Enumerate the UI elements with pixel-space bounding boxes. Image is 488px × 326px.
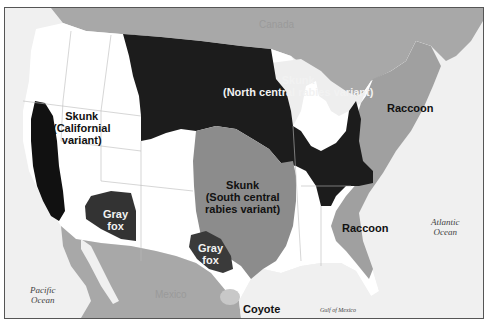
label-skunk-north-central: Skunk (North central rabies variant) [223, 74, 373, 98]
label-raccoon-southeast: Raccoon [342, 222, 388, 234]
label-skunk-californian: Skunk (Californial variant) [53, 110, 110, 146]
label-skunk-south-central: Skunk (South central rabies variant) [205, 179, 280, 215]
map-canvas [5, 8, 483, 318]
label-mexico: Mexico [155, 289, 187, 300]
coyote-region [220, 289, 240, 305]
label-raccoon-northeast: Raccoon [387, 102, 433, 114]
label-pacific-ocean: Pacific Ocean [30, 285, 56, 306]
map-frame: Skunk (North central rabies variant) Sku… [4, 7, 484, 319]
label-gray-fox-texas: Gray fox [198, 242, 223, 266]
label-atlantic-ocean: Atlantic Ocean [431, 217, 460, 238]
label-gulf-of-mexico: Gulf of Mexico [320, 307, 356, 314]
label-gray-fox-arizona: Gray fox [103, 208, 128, 232]
label-canada: Canada [259, 19, 294, 30]
label-coyote: Coyote [243, 303, 280, 315]
